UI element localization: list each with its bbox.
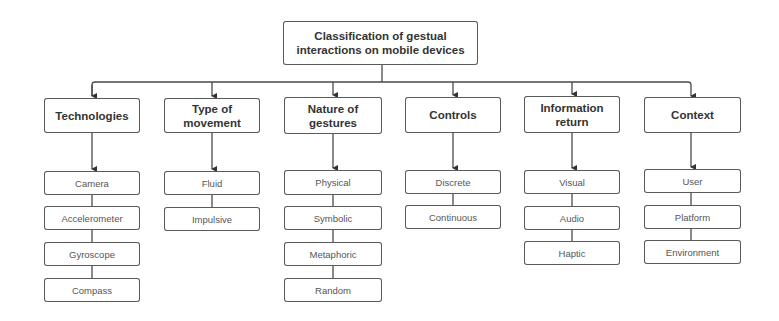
category-context: Context — [644, 97, 741, 133]
leaf-physical: Physical — [284, 170, 382, 195]
category-nature-of-gestures: Nature of gestures — [284, 97, 382, 134]
leaf-discrete: Discrete — [405, 170, 501, 194]
leaf-camera: Camera — [44, 171, 140, 195]
category-information-return: Information return — [524, 96, 620, 133]
leaf-symbolic: Symbolic — [284, 206, 382, 230]
category-label: Context — [671, 108, 714, 122]
category-label-line-1: Nature of — [308, 102, 358, 116]
leaf-environment: Environment — [644, 240, 741, 264]
category-label: Technologies — [55, 109, 128, 123]
category-label-line-2: gestures — [308, 116, 358, 130]
leaf-audio: Audio — [524, 206, 620, 230]
category-label-line-2: movement — [183, 116, 241, 130]
category-label-line-1: Information — [540, 101, 603, 115]
category-label-line-1: Type of — [183, 102, 241, 116]
leaf-gyroscope: Gyroscope — [44, 242, 140, 266]
leaf-user: User — [644, 169, 741, 193]
category-technologies: Technologies — [44, 98, 140, 133]
root-line-2: interactions on mobile devices — [296, 43, 464, 57]
leaf-fluid: Fluid — [164, 171, 260, 195]
leaf-visual: Visual — [524, 170, 620, 194]
category-type-of-movement: Type of movement — [164, 98, 260, 133]
leaf-random: Random — [284, 278, 382, 302]
leaf-impulsive: Impulsive — [164, 207, 260, 231]
leaf-continuous: Continuous — [405, 205, 501, 229]
leaf-compass: Compass — [44, 278, 140, 302]
category-label-line-2: return — [540, 115, 603, 129]
leaf-accelerometer: Accelerometer — [44, 206, 140, 230]
classification-diagram: Classification of gestual interactions o… — [0, 0, 779, 321]
category-controls: Controls — [405, 97, 501, 133]
leaf-haptic: Haptic — [524, 241, 620, 265]
leaf-metaphoric: Metaphoric — [284, 242, 382, 266]
root-node: Classification of gestual interactions o… — [283, 21, 478, 65]
leaf-platform: Platform — [644, 205, 741, 229]
root-line-1: Classification of gestual — [296, 29, 464, 43]
category-label: Controls — [429, 108, 476, 122]
